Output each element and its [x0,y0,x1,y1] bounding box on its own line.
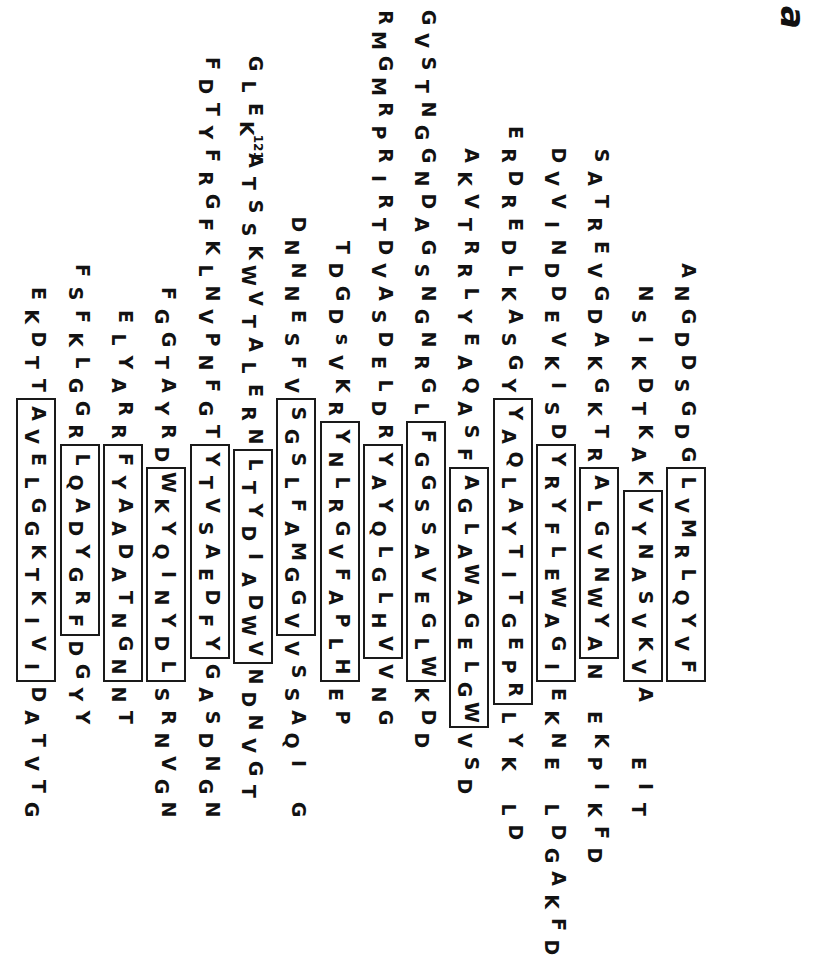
residue: S [463,420,483,443]
residue: T [412,75,432,98]
residue: T [629,397,649,420]
residue: V [456,729,476,752]
residue: Y [159,609,179,632]
residue: F [159,282,179,305]
residue: A [456,540,476,563]
residue: L [23,471,43,494]
residue: D [326,259,346,282]
residue: G [196,775,216,798]
residue: S [542,397,562,420]
residue: A [196,683,216,706]
residue: s [333,328,353,351]
residue: K [499,752,519,775]
residue: A [109,374,129,397]
residue: R [456,259,476,282]
residue: V [585,259,605,282]
residue: V [196,305,216,328]
residue: I [23,655,43,678]
residue: I [499,563,519,586]
residue: V [629,655,649,678]
residue: S [289,402,309,425]
residue: V [282,609,302,632]
residue: K [333,374,353,397]
residue: G [203,660,223,683]
residue: Y [376,494,396,517]
residue: G [463,609,483,632]
residue: R [376,420,396,443]
residue: S [592,144,612,167]
residue: R [506,678,526,701]
residue: N [419,328,439,351]
boxed-motif: SGSLFAMGGV [276,398,316,636]
residue: L [376,374,396,397]
residue: F [679,655,699,678]
residue: G [419,471,439,494]
residue: K [203,236,223,259]
residue: K [246,241,266,264]
residue: E [246,379,266,402]
residue: A [629,443,649,466]
residue: A [592,328,612,351]
residue: K [585,351,605,374]
residue: E [506,213,526,236]
residue: D [419,190,439,213]
residue: N [549,729,569,752]
residue: D [376,328,396,351]
residue: D [116,540,136,563]
residue: R [585,443,605,466]
residue: R [542,471,562,494]
residue: K [592,729,612,752]
residue: A [246,149,266,172]
residue: E [585,706,605,729]
residue: Y [333,425,353,448]
residue: G [73,660,93,683]
residue: D [196,75,216,98]
residue: A [282,517,302,540]
residue: N [152,729,172,752]
residue: D [506,167,526,190]
residue: L [376,586,396,609]
residue: E [506,632,526,655]
residue: V [326,351,346,374]
residue: G [30,494,50,517]
residue: D [549,144,569,167]
residue: Q [506,448,526,471]
residue: V [23,752,43,775]
residue: L [463,655,483,678]
residue: A [116,494,136,517]
residue: W [239,264,259,287]
residue: A [456,351,476,374]
residue: L [679,563,699,586]
residue: G [333,282,353,305]
residue: W [463,563,483,586]
residue: S [246,195,266,218]
residue: D [549,821,569,844]
residue: K [23,305,43,328]
residue: L [549,540,569,563]
residue: Q [66,471,86,494]
residue: N [289,259,309,282]
residue: A [636,683,656,706]
boxed-motif: ALGVNWYA [579,467,619,659]
residue: S [672,374,692,397]
residue: N [549,236,569,259]
residue: D [456,775,476,798]
residue: Q [672,586,692,609]
residue: R [109,420,129,443]
residue: A [549,867,569,890]
residue: R [196,167,216,190]
residue: T [152,351,172,374]
residue: D [369,397,389,420]
residue: L [326,632,346,655]
residue: G [66,374,86,397]
boxed-motif: YTVSAEDFY [190,444,230,659]
residue: Y [152,397,172,420]
residue: V [30,632,50,655]
residue: A [585,167,605,190]
residue: G [419,144,439,167]
residue: G [592,282,612,305]
residue: L [463,517,483,540]
residue: V [376,632,396,655]
residue: V [23,425,43,448]
residue: D [239,522,259,545]
